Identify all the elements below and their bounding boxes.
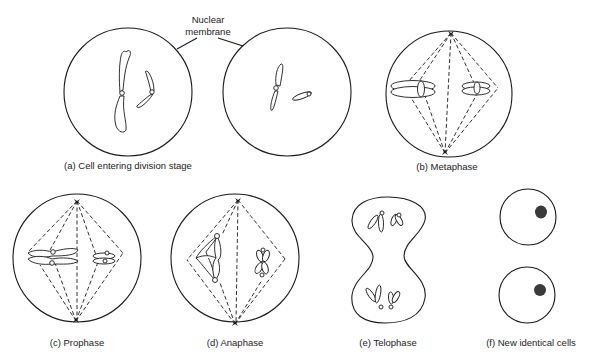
stage-c-label: (c) Prophase [50, 337, 104, 348]
annotation-line-1: Nuclear [192, 14, 225, 25]
stage-c-prophase [13, 194, 141, 323]
chromosome [145, 71, 154, 92]
nuclear-membrane-circle [171, 194, 299, 322]
stage-a-cell-entering-division [64, 28, 351, 156]
chromosome [115, 96, 126, 132]
annotation-line-2: membrane [185, 26, 230, 37]
stage-d-label: (d) Anaphase [207, 337, 264, 348]
chromosome [119, 51, 130, 92]
daughter-cell-1 [500, 189, 556, 245]
stage-f-new-identical-cells [499, 189, 556, 323]
nucleus-2 [534, 284, 546, 296]
chromosome [276, 64, 283, 86]
chromosome [366, 214, 379, 230]
nuclear-membrane-circle [64, 28, 192, 156]
nuclear-membrane-circle [223, 28, 351, 156]
mitosis-diagram: Nuclear membrane (a) Cell entering divis… [0, 0, 589, 361]
nucleus-1 [535, 206, 547, 219]
stage-b-label: (b) Metaphase [416, 161, 477, 172]
stage-a-label: (a) Cell entering division stage [64, 160, 192, 171]
stage-d-anaphase [171, 194, 299, 326]
stage-b-metaphase [386, 31, 512, 157]
dividing-cell-membrane [352, 197, 426, 323]
stage-e-label: (e) Telophase [359, 337, 416, 348]
stage-f-label: (f) New identical cells [486, 337, 576, 348]
nuclear-membrane-annotation: Nuclear membrane [177, 14, 243, 49]
daughter-cell-2 [499, 267, 555, 323]
stage-e-telophase [352, 197, 426, 323]
